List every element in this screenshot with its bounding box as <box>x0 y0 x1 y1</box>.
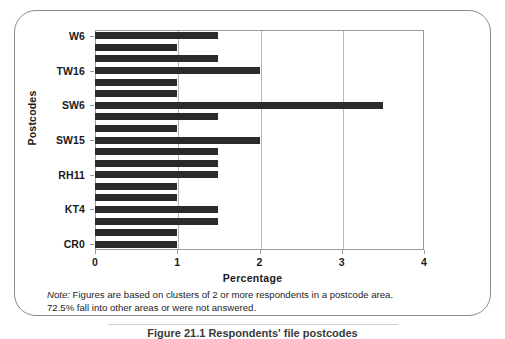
bar <box>95 160 218 167</box>
x-axis-labels: 01234 <box>0 250 505 272</box>
bar <box>95 67 260 74</box>
y-axis-tick-label: TW16 <box>57 65 85 76</box>
bar <box>95 79 177 86</box>
x-axis-tick <box>424 250 425 254</box>
chart-note: Note: Figures are based on clusters of 2… <box>47 288 457 314</box>
x-axis-tick-label: 0 <box>92 257 98 268</box>
x-axis-tick <box>342 250 343 254</box>
y-axis-tick <box>90 244 94 245</box>
bar <box>95 194 177 201</box>
bar <box>95 137 260 144</box>
y-axis-tick <box>90 105 94 106</box>
note-label: Note: <box>47 289 70 300</box>
bar <box>95 102 383 109</box>
bar <box>95 55 218 62</box>
y-axis-labels: W6TW16SW6SW15RH11KT4CR0 <box>0 30 92 250</box>
note-line-1: Figures are based on clusters of 2 or mo… <box>70 289 393 300</box>
x-axis-tick-label: 1 <box>174 257 180 268</box>
note-line-2: 72.5% fall into other areas or were not … <box>47 302 256 313</box>
y-axis-tick-label: RH11 <box>58 169 85 180</box>
bar <box>95 125 177 132</box>
y-axis-tick-label: SW6 <box>62 100 85 111</box>
bar <box>95 171 218 178</box>
x-axis-tick-label: 4 <box>421 257 427 268</box>
bar <box>95 183 177 190</box>
bar <box>95 148 218 155</box>
x-axis-tick <box>260 250 261 254</box>
y-axis-tick <box>90 209 94 210</box>
y-axis-tick <box>90 36 94 37</box>
x-axis-tick <box>95 250 96 254</box>
y-axis-tick <box>90 175 94 176</box>
x-axis-tick-label: 2 <box>257 257 263 268</box>
bar <box>95 113 218 120</box>
bar <box>95 229 177 236</box>
bar <box>95 218 218 225</box>
y-axis-tick-label: W6 <box>69 31 85 42</box>
x-axis-tick-label: 3 <box>339 257 345 268</box>
bar <box>95 90 177 97</box>
caption-divider <box>108 324 398 325</box>
x-axis-tick <box>177 250 178 254</box>
y-axis-tick <box>90 140 94 141</box>
y-axis-tick-label: KT4 <box>65 204 85 215</box>
y-axis-tick <box>90 71 94 72</box>
y-axis-title: Postcodes <box>26 63 38 173</box>
bar <box>95 206 218 213</box>
bar <box>95 241 177 248</box>
bar <box>95 32 218 39</box>
bars-layer <box>95 30 424 250</box>
bar <box>95 44 177 51</box>
y-axis-tick-label: SW15 <box>56 135 85 146</box>
x-axis-title: Percentage <box>0 272 505 284</box>
figure-caption: Figure 21.1 Respondents' file postcodes <box>0 327 505 339</box>
y-axis-tick-label: CR0 <box>64 239 85 250</box>
